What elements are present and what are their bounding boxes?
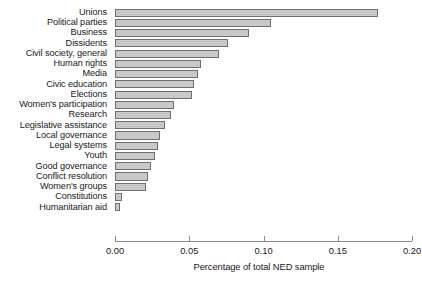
bar bbox=[115, 203, 120, 211]
category-label: Elections bbox=[0, 89, 107, 100]
bar bbox=[115, 121, 165, 129]
bar bbox=[115, 60, 201, 68]
category-label: Women's participation bbox=[0, 99, 107, 110]
x-tick-label: 0.00 bbox=[85, 245, 145, 256]
category-label: Youth bbox=[0, 150, 107, 161]
x-tick bbox=[189, 236, 190, 241]
x-tick-label: 0.05 bbox=[159, 245, 219, 256]
category-label: Research bbox=[0, 109, 107, 120]
bar bbox=[115, 9, 378, 17]
x-tick-label: 0.20 bbox=[382, 245, 422, 256]
x-tick bbox=[338, 236, 339, 241]
category-label: Civil society, general bbox=[0, 48, 107, 59]
category-label: Business bbox=[0, 27, 107, 38]
bar bbox=[115, 152, 155, 160]
bar bbox=[115, 101, 174, 109]
x-axis-title-text: Percentage of total NED sample bbox=[194, 261, 325, 272]
bar bbox=[115, 172, 148, 180]
category-label: Unions bbox=[0, 7, 107, 18]
bar bbox=[115, 50, 219, 58]
bar bbox=[115, 70, 198, 78]
category-label: Good governance bbox=[0, 161, 107, 172]
bar bbox=[115, 193, 122, 201]
x-tick-label: 0.10 bbox=[234, 245, 294, 256]
bar bbox=[115, 91, 192, 99]
category-label: Human rights bbox=[0, 58, 107, 69]
bar bbox=[115, 80, 194, 88]
category-label: Legislative assistance bbox=[0, 120, 107, 131]
bar bbox=[115, 29, 249, 37]
category-label: Constitutions bbox=[0, 191, 107, 202]
x-axis-title: Percentage of total NED sample bbox=[0, 261, 422, 272]
x-tick bbox=[412, 236, 413, 241]
x-axis-line bbox=[115, 241, 412, 242]
category-label: Media bbox=[0, 68, 107, 79]
bar bbox=[115, 131, 160, 139]
category-label: Dissidents bbox=[0, 38, 107, 49]
x-tick bbox=[264, 236, 265, 241]
category-label: Legal systems bbox=[0, 140, 107, 151]
category-label: Humanitarian aid bbox=[0, 202, 107, 213]
bar bbox=[115, 19, 271, 27]
category-label: Women's groups bbox=[0, 181, 107, 192]
x-tick-label: 0.15 bbox=[308, 245, 368, 256]
category-label: Local governance bbox=[0, 130, 107, 141]
bar bbox=[115, 142, 158, 150]
bar bbox=[115, 162, 151, 170]
category-label: Civic education bbox=[0, 79, 107, 90]
bar bbox=[115, 39, 228, 47]
bar bbox=[115, 111, 171, 119]
x-tick bbox=[115, 236, 116, 241]
category-label: Conflict resolution bbox=[0, 171, 107, 182]
bar-row: Humanitarian aid bbox=[0, 203, 422, 213]
category-label: Political parties bbox=[0, 17, 107, 28]
bar-chart: UnionsPolitical partiesBusinessDissident… bbox=[0, 0, 422, 287]
bar bbox=[115, 183, 146, 191]
